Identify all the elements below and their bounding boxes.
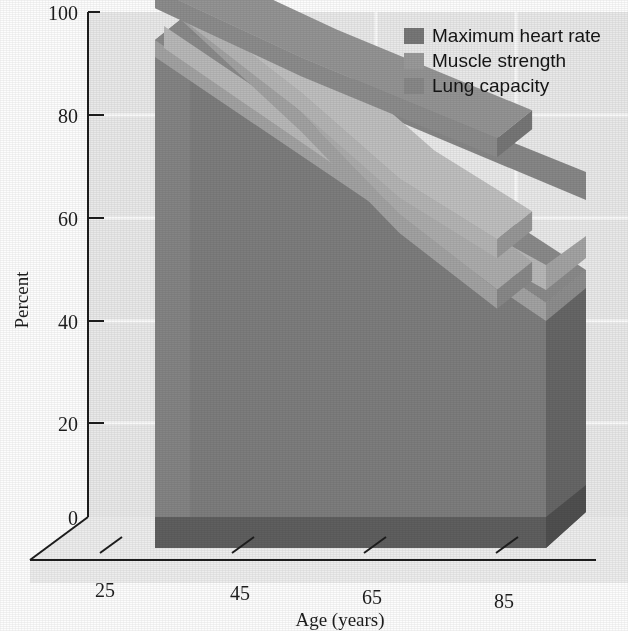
x-tick-label-65: 65 [362,586,382,608]
area-body-base-front [155,517,546,548]
y-tick-label-40: 40 [58,311,78,333]
legend-swatch-muscle-strength [404,53,424,69]
area-body-left-shoulder [155,12,190,548]
y-tick-label-60: 60 [58,208,78,230]
x-tick-label-85: 85 [494,590,514,612]
y-tick-label-80: 80 [58,105,78,127]
legend-label-lung-capacity: Lung capacity [432,75,550,96]
legend-label-muscle-strength: Muscle strength [432,50,566,71]
y-axis-title: Percent [11,271,32,329]
legend-swatch-lung-capacity [404,78,424,94]
y-tick-label-0: 0 [68,507,78,529]
x-tick-label-25: 25 [95,579,115,601]
legend-label-maximum-heart-rate: Maximum heart rate [432,25,601,46]
legend-item-maximum-heart-rate[interactable]: Maximum heart rate [404,25,601,46]
y-tick-label-100: 100 [48,2,78,24]
x-tick-label-45: 45 [230,582,250,604]
chart-figure: 100 80 60 40 20 0 25 45 65 85 Percent Ag… [0,0,628,631]
legend-swatch-maximum-heart-rate [404,28,424,44]
y-tick-label-20: 20 [58,413,78,435]
x-axis-title: Age (years) [295,609,384,631]
